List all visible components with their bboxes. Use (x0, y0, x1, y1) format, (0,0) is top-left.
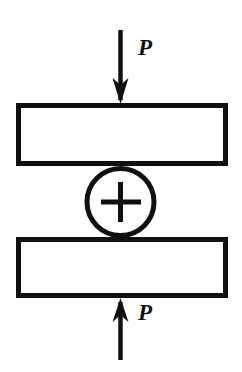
bottom-load-arrow (113, 298, 129, 360)
figure-canvas: P P (0, 0, 242, 372)
lower-plate (19, 240, 226, 296)
diagram-svg (0, 0, 242, 372)
top-load-label: P (138, 36, 152, 59)
pin-joint-circle (87, 169, 154, 236)
top-load-arrow (113, 30, 129, 104)
bottom-load-label: P (138, 301, 152, 324)
upper-plate (19, 106, 226, 164)
